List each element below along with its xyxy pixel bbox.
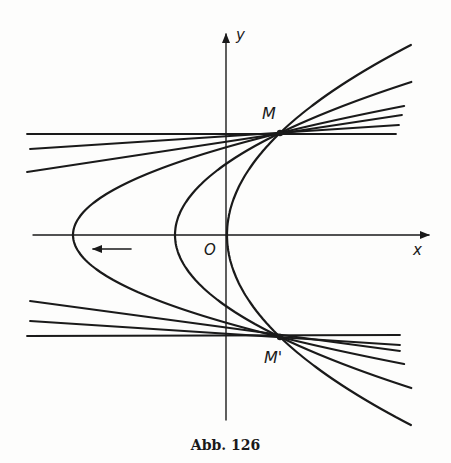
point-m-prime-label: M'	[264, 350, 282, 366]
figure-abb-126: y x O M M' Abb. 126	[0, 0, 451, 463]
origin-label: O	[204, 243, 216, 258]
y-axis-label: y	[236, 28, 245, 43]
line-upper-steep	[27, 115, 402, 172]
figure-caption: Abb. 126	[0, 437, 451, 453]
point-m-prime	[277, 334, 283, 340]
line-upper-shallow	[30, 125, 399, 149]
point-m-label: M	[262, 106, 276, 122]
x-axis-label: x	[413, 243, 422, 258]
line-lower-steep	[30, 301, 400, 351]
diagram-canvas	[0, 0, 451, 463]
point-m	[277, 130, 283, 136]
line-lower-shallow	[30, 321, 400, 345]
line-lower-horizontal	[27, 335, 400, 336]
